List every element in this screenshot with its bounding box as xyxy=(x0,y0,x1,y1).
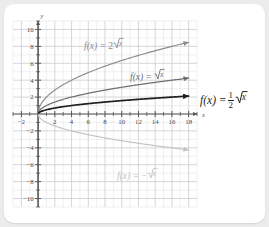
annotation-equals: = xyxy=(146,72,152,82)
annotation-radical: x xyxy=(154,68,165,80)
fraction-numerator: 1 xyxy=(228,91,235,100)
x-axis-label: x xyxy=(201,111,205,118)
x-tick-label: 14 xyxy=(152,118,159,125)
annotation-radical: x xyxy=(113,37,124,49)
annotation-fx: f(x) xyxy=(117,171,130,181)
annotation-fraction: 12 xyxy=(228,91,235,110)
annotation-equals: = xyxy=(219,94,227,106)
x-tick-label: 4 xyxy=(70,118,74,125)
y-tick-label: 6 xyxy=(30,60,34,67)
y-tick-label: 10 xyxy=(27,26,34,33)
y-tick-label: −10 xyxy=(23,195,34,202)
y-tick-label: 2 xyxy=(30,93,34,100)
annotation-radicand: x xyxy=(160,71,164,79)
annotation-neg-sqrt-x: f(x) = −x xyxy=(117,167,158,182)
x-tick-label: 16 xyxy=(169,118,176,125)
y-tick-label: 8 xyxy=(30,43,34,50)
annotation-radicand: x xyxy=(119,40,123,48)
y-tick-label: −4 xyxy=(26,144,34,151)
annotation-equals: = xyxy=(133,171,139,181)
fraction-denominator: 2 xyxy=(228,100,235,110)
annotation-radicand: x xyxy=(242,93,246,103)
annotation-fx: f(x) xyxy=(130,72,143,82)
annotation-2-sqrt-x: f(x) = 2x xyxy=(84,37,124,52)
x-tick-label: 12 xyxy=(135,118,142,125)
annotation-radicand: x xyxy=(152,170,156,178)
y-tick-label: −6 xyxy=(26,161,34,168)
y-tick-label: −8 xyxy=(26,178,34,185)
x-tick-label: −2 xyxy=(18,118,26,125)
annotation-radical: x xyxy=(147,167,158,179)
annotation-radical: x xyxy=(235,90,248,104)
y-tick-label: −2 xyxy=(26,127,34,134)
x-tick-label: 10 xyxy=(118,118,125,125)
annotation-sqrt-x: f(x) = x xyxy=(130,68,165,83)
chart-card: −224681012141618108642−2−4−6−8−10 y x f(… xyxy=(4,4,265,223)
x-tick-label: 18 xyxy=(185,118,192,125)
x-tick-label: 2 xyxy=(53,118,57,125)
y-axis-label: y xyxy=(40,12,44,19)
annotation-equals: = xyxy=(100,41,106,51)
annotation-half-sqrt-x: f(x) =12x xyxy=(200,90,248,111)
annotation-fx: f(x) xyxy=(200,94,216,106)
y-tick-label: 4 xyxy=(30,77,34,84)
x-tick-label: 8 xyxy=(103,118,107,125)
annotation-fx: f(x) xyxy=(84,41,97,51)
x-tick-label: 6 xyxy=(87,118,91,125)
